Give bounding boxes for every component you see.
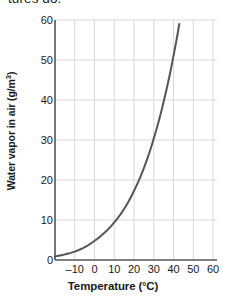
plot-area [0,0,226,302]
x-axis-title-text: Temperature (°C) [68,280,158,292]
x-tick-label: 40 [167,263,179,275]
x-tick-label: –10 [66,263,84,275]
x-axis-title: Temperature (°C) [0,280,226,292]
x-tick-label: 10 [108,263,120,275]
x-tick-label: 30 [148,263,160,275]
x-tick-label: 50 [187,263,199,275]
x-tick-label: 60 [207,263,219,275]
x-tick-label: 20 [128,263,140,275]
vapor-capacity-chart: Water vapor in air (g/m3) 0102030405060 … [0,0,226,302]
x-axis-tick-labels: –100102030405060 [0,262,226,278]
horizontal-gridlines [55,20,217,220]
x-tick-label: 0 [91,263,97,275]
